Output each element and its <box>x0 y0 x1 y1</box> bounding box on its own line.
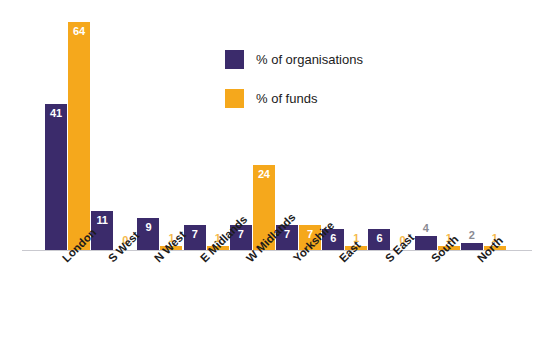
legend-item-funds: % of funds <box>225 89 363 108</box>
bar-fun-0 <box>68 22 90 250</box>
value-label-org-0: 41 <box>45 108 67 119</box>
chart-legend: % of organisations % of funds <box>225 50 363 128</box>
legend-item-organisations: % of organisations <box>225 50 363 69</box>
value-label-org-8: 4 <box>415 223 437 234</box>
value-label-org-1: 11 <box>91 215 113 226</box>
orange-swatch-icon <box>225 89 244 108</box>
x-axis-baseline <box>22 250 532 251</box>
value-label-org-9: 2 <box>461 230 483 241</box>
bar-org-9 <box>461 243 483 250</box>
purple-swatch-icon <box>225 50 244 69</box>
value-label-org-3: 7 <box>184 229 206 240</box>
value-label-org-7: 6 <box>368 233 390 244</box>
value-label-fun-0: 64 <box>68 26 90 37</box>
legend-label-funds: % of funds <box>256 91 317 106</box>
bar-org-8 <box>415 236 437 250</box>
value-label-fun-4: 24 <box>253 169 275 180</box>
legend-label-organisations: % of organisations <box>256 52 363 67</box>
bar-org-0 <box>45 104 67 250</box>
value-label-org-2: 9 <box>137 222 159 233</box>
bar-chart: 416411091717247761604121 LondonS WestN W… <box>0 0 553 339</box>
